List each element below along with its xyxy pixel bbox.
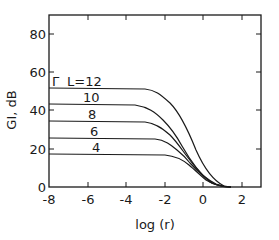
y-tick-label: 0: [38, 180, 46, 195]
x-tick-label: 2: [238, 192, 246, 207]
gamma-label: Γ: [52, 74, 60, 89]
curve-label-l6: 6: [90, 124, 98, 139]
x-tick-label: -4: [120, 192, 133, 207]
x-tick-label: -2: [159, 192, 172, 207]
x-tick-labels: -8 -6 -4 -2 0 2: [43, 192, 247, 207]
curve-l12: [49, 88, 231, 187]
x-tick-label: -6: [82, 192, 95, 207]
y-tick-labels: 0 20 40 60 80: [29, 27, 46, 195]
y-tick-label: 40: [29, 103, 46, 118]
y-tick-label: 20: [29, 142, 46, 157]
curve-label-l12: L=12: [67, 74, 102, 89]
x-tick-label: 0: [199, 192, 207, 207]
y-axis-title: GI, dB: [4, 90, 19, 129]
y-tick-label: 60: [29, 65, 46, 80]
curve-label-l8: 8: [88, 107, 96, 122]
curve-label-l10: 10: [83, 90, 100, 105]
plot-frame: [49, 15, 261, 187]
curves: [49, 88, 231, 187]
curve-l4: [49, 154, 231, 187]
curve-l10: [49, 104, 231, 187]
curve-label-l4: 4: [92, 140, 100, 155]
y-tick-label: 80: [29, 27, 46, 42]
x-axis-title: log (r): [135, 217, 174, 232]
chart: -8 -6 -4 -2 0 2 0 20 40 60 80 log (r) GI…: [0, 0, 279, 240]
x-ticks: [88, 15, 242, 187]
curve-l6: [49, 138, 231, 187]
